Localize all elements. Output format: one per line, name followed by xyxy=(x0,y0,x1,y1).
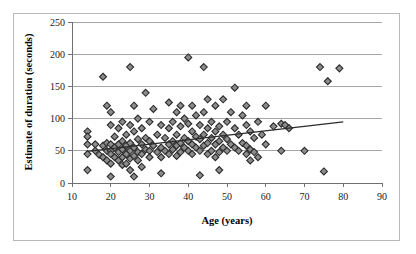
y-tick-labels-group: 050100150200250 xyxy=(50,17,65,189)
y-tick-label-100: 100 xyxy=(50,113,65,124)
y-tick-marks-group xyxy=(68,22,72,183)
x-tick-labels-group: 102030405060708090 xyxy=(67,191,387,202)
scatter-chart: 050100150200250 102030405060708090 Age (… xyxy=(0,0,416,254)
x-tick-label-90: 90 xyxy=(377,191,387,202)
x-tick-label-60: 60 xyxy=(261,191,271,202)
x-tick-label-70: 70 xyxy=(300,191,310,202)
x-tick-label-10: 10 xyxy=(67,191,77,202)
x-tick-label-40: 40 xyxy=(183,191,193,202)
y-tick-label-150: 150 xyxy=(50,81,65,92)
x-tick-label-80: 80 xyxy=(338,191,348,202)
x-axis-title: Age (years) xyxy=(201,215,253,227)
y-tick-label-0: 0 xyxy=(60,178,65,189)
x-tick-label-50: 50 xyxy=(222,191,232,202)
y-tick-label-50: 50 xyxy=(55,145,65,156)
x-tick-label-20: 20 xyxy=(106,191,116,202)
y-axis-title: Estimate of duration (seconds) xyxy=(23,33,35,170)
figure-container: 050100150200250 102030405060708090 Age (… xyxy=(0,0,416,254)
x-tick-marks-group xyxy=(72,183,382,187)
x-tick-label-30: 30 xyxy=(145,191,155,202)
y-tick-label-200: 200 xyxy=(50,49,65,60)
y-tick-label-250: 250 xyxy=(50,17,65,28)
